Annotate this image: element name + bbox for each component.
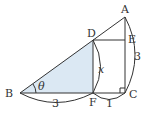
label-d: D	[87, 27, 96, 40]
label-c: C	[129, 88, 137, 101]
label-e: E	[128, 33, 136, 46]
label-b: B	[5, 87, 13, 100]
geometry-diagram: A B C D E F 3 1 3 x θ	[0, 0, 149, 115]
label-bf-length: 3	[52, 97, 59, 110]
label-ac-length: 3	[134, 50, 141, 63]
label-a: A	[120, 3, 130, 16]
diagram-canvas: A B C D E F 3 1 3 x θ	[0, 0, 149, 115]
right-angle-marker	[120, 88, 125, 93]
label-angle-theta: θ	[38, 80, 45, 93]
label-fc-length: 1	[106, 97, 113, 110]
label-df-length: x	[98, 63, 105, 76]
label-f: F	[89, 96, 97, 109]
